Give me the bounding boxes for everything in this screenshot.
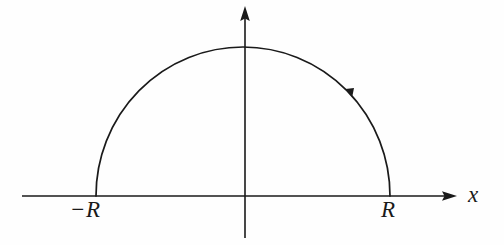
semicircle-arc xyxy=(96,47,390,196)
right-endpoint-label: R xyxy=(381,198,395,221)
arc-direction-arrowhead-icon xyxy=(346,88,358,102)
x-axis-label: x xyxy=(468,183,478,206)
left-endpoint-label: −R xyxy=(70,198,101,221)
contour-figure: −R R x xyxy=(0,0,504,245)
